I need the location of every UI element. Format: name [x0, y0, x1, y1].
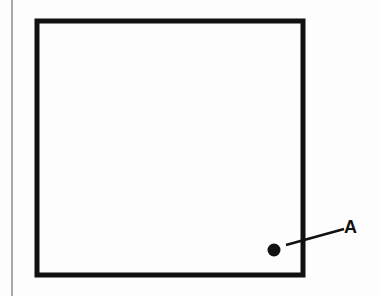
point-a-dot — [268, 244, 281, 257]
leader-line — [286, 229, 344, 245]
diagram-canvas — [0, 0, 380, 296]
point-a-label: A — [344, 217, 357, 238]
square — [37, 21, 303, 275]
